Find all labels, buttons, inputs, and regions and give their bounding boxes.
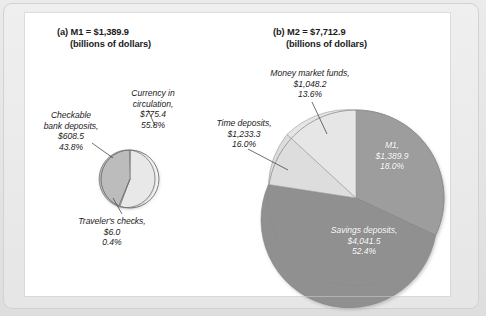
label-money-market-funds: Money market funds, $1,048.2 13.6% — [245, 68, 375, 100]
label-checkable-name-line2: bank deposits, — [29, 121, 113, 132]
label-travelers-name: Traveler's checks, — [62, 216, 162, 227]
label-travelers-value: $6.0 — [62, 227, 162, 238]
label-currency-in-circulation: Currency in circulation, $775.4 55.8% — [118, 88, 188, 130]
label-mmf-percent: 13.6% — [245, 89, 375, 100]
label-m1-value: $1,389.9 — [352, 151, 432, 162]
label-savings-name: Savings deposits, — [308, 225, 420, 236]
label-currency-percent: 55.8% — [118, 120, 188, 131]
label-m1-inside: M1, $1,389.9 18.0% — [352, 140, 432, 172]
label-checkable-value: $608.5 — [29, 131, 113, 142]
label-savings-deposits-inside: Savings deposits, $4,041.5 52.4% — [308, 225, 420, 257]
pie-chart-m1 — [99, 150, 159, 208]
label-savings-percent: 52.4% — [308, 246, 420, 257]
label-m1-percent: 18.0% — [352, 161, 432, 172]
label-travelers-percent: 0.4% — [62, 237, 162, 248]
label-m1-name: M1, — [352, 140, 432, 151]
label-currency-name-line2: circulation, — [118, 99, 188, 110]
label-time-deposits: Time deposits, $1,233.3 16.0% — [196, 118, 292, 150]
label-savings-value: $4,041.5 — [308, 236, 420, 247]
label-mmf-name: Money market funds, — [245, 68, 375, 79]
label-currency-value: $775.4 — [118, 109, 188, 120]
label-time-name: Time deposits, — [196, 118, 292, 129]
label-travelers-checks: Traveler's checks, $6.0 0.4% — [62, 216, 162, 248]
label-time-percent: 16.0% — [196, 139, 292, 150]
label-currency-name-line1: Currency in — [118, 88, 188, 99]
label-time-value: $1,233.3 — [196, 129, 292, 140]
label-checkable-bank-deposits: Checkable bank deposits, $608.5 43.8% — [29, 110, 113, 152]
label-checkable-name-line1: Checkable — [29, 110, 113, 121]
label-checkable-percent: 43.8% — [29, 142, 113, 153]
label-mmf-value: $1,048.2 — [245, 79, 375, 90]
